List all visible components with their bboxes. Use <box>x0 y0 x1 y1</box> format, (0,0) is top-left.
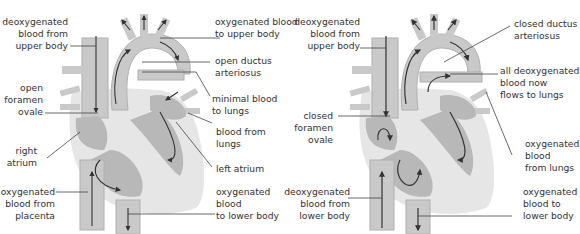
label-blood-from-lungs: blood from lungs <box>216 126 266 150</box>
label-open-foramen-ovale: open foramen ovale <box>4 82 43 118</box>
superior-vena-cava <box>372 38 398 118</box>
label-oxygenated-from-placenta: oxygenated blood from placenta <box>1 186 55 222</box>
label-oxygenated-to-upper-body: oxygenated blood to upper body <box>215 16 298 40</box>
label-closed-foramen-ovale: closed foramen ovale <box>294 110 333 146</box>
closed-ductus <box>430 57 450 67</box>
label-deoxygenated-upper-body: deoxygenated blood from upper body <box>2 16 68 52</box>
label-deoxygenated-upper-body: deoxygenated blood from upper body <box>294 16 360 52</box>
newborn-heart-panel: deoxygenated blood from upper body close… <box>290 0 580 234</box>
pulmonary-artery <box>138 70 184 80</box>
label-deoxygenated-lower-body: deoxygenated blood from lower body <box>284 186 350 222</box>
label-all-deoxygenated-to-lungs: all deoxygenated blood now flows to lung… <box>500 65 579 101</box>
fetal-heart-panel: deoxygenated blood from upper body oxyge… <box>0 0 290 234</box>
label-oxygenated-to-lower-body: oxygenated blood to lower body <box>523 186 577 222</box>
superior-vena-cava <box>82 38 108 118</box>
label-open-ductus-arteriosus: open ductus arteriosus <box>215 55 272 79</box>
label-right-atrium: right atrium <box>7 145 37 169</box>
label-oxygenated-to-lower-body: oxygenated blood to lower body <box>216 186 279 222</box>
label-closed-ductus-arteriosus: closed ductus arteriosus <box>514 18 577 42</box>
label-left-atrium: left atrium <box>216 163 264 175</box>
label-minimal-blood-to-lungs: minimal blood to lungs <box>212 93 277 117</box>
pulmonary-artery <box>420 72 482 82</box>
label-oxygenated-from-lungs: oxygenated blood from lungs <box>525 138 579 174</box>
